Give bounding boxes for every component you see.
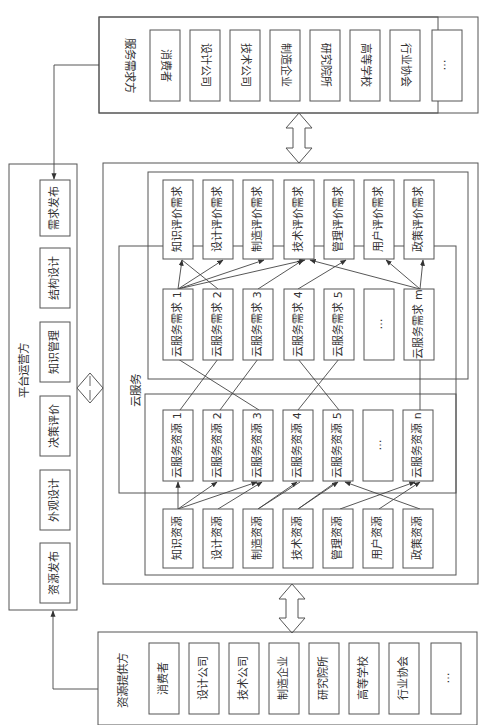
svg-text:云服务资源 1: 云服务资源 1 xyxy=(170,412,184,478)
svg-text:用户评价需求: 用户评价需求 xyxy=(371,186,385,252)
svg-text:设计公司: 设计公司 xyxy=(199,43,212,87)
svg-text:高等学校: 高等学校 xyxy=(356,656,370,700)
platform-operator-panel: 平台运营方 需求发布 结构设计 知识管理 决策评价 外观设计 资源发布 xyxy=(9,164,77,610)
svg-text:决策评价: 决策评价 xyxy=(47,404,61,448)
service-demander-title: 服务需求方 xyxy=(123,38,137,93)
evaluation-demand-row: 知识评价需求 设计评价需求 制造评价需求 技术评价需求 管理评价需求 用户评价需… xyxy=(163,180,434,259)
platform-operator-title: 平台运营方 xyxy=(17,343,31,398)
svg-text:外观设计: 外观设计 xyxy=(48,478,61,522)
diamond-connector-icon xyxy=(77,373,103,403)
svg-text:管理资源: 管理资源 xyxy=(330,516,344,560)
svg-text:用户资源: 用户资源 xyxy=(370,516,384,560)
resource-demand-crossing-lines xyxy=(178,359,420,410)
diagram-canvas: 服务需求方 消费者 设计公司 技术公司 制造企业 研究院所 高等学校 行业协会 … xyxy=(0,0,490,725)
svg-text:云服务资源 n: 云服务资源 n xyxy=(410,412,424,477)
svg-text:云服务资源 4: 云服务资源 4 xyxy=(290,412,304,478)
svg-text:制造资源: 制造资源 xyxy=(250,516,264,560)
svg-text:知识资源: 知识资源 xyxy=(170,516,184,560)
svg-text:知识管理: 知识管理 xyxy=(47,330,61,374)
resource-to-cloud-arrows xyxy=(178,482,420,509)
svg-text:政策评价需求: 政策评价需求 xyxy=(411,186,425,252)
svg-text:管理评价需求: 管理评价需求 xyxy=(331,186,345,252)
svg-text:云服务需求 1: 云服务需求 1 xyxy=(171,291,184,357)
svg-text:研究院所: 研究院所 xyxy=(316,656,330,700)
svg-text:设计公司: 设计公司 xyxy=(197,656,210,700)
svg-text:消费者: 消费者 xyxy=(156,662,170,695)
double-arrow-top-icon xyxy=(286,113,312,163)
svg-text:云服务需求 5: 云服务需求 5 xyxy=(332,291,345,357)
svg-text:云服务需求 m: 云服务需求 m xyxy=(412,289,425,358)
resource-provider-title: 资源提供方 xyxy=(116,653,130,708)
svg-text:云服务资源 5: 云服务资源 5 xyxy=(330,412,344,478)
service-demander-items: 消费者 设计公司 技术公司 制造企业 研究院所 高等学校 行业协会 xyxy=(150,30,420,101)
svg-text:云服务: 云服务 xyxy=(129,373,143,407)
svg-text:技术公司: 技术公司 xyxy=(237,656,250,700)
cloud-demand-row: 云服务需求 1 云服务需求 2 云服务需求 3 云服务需求 4 云服务需求 5 … xyxy=(163,289,434,360)
svg-text:…: … xyxy=(372,319,385,330)
svg-text:…: … xyxy=(371,440,384,451)
svg-text:制造企业: 制造企业 xyxy=(279,43,293,87)
svg-text:政策资源: 政策资源 xyxy=(410,516,424,560)
svg-text:…: … xyxy=(441,60,454,71)
service-demander-panel: 服务需求方 消费者 设计公司 技术公司 制造企业 研究院所 高等学校 行业协会 xyxy=(99,17,438,113)
svg-text:需求发布: 需求发布 xyxy=(47,186,61,230)
svg-text:行业协会: 行业协会 xyxy=(399,43,413,87)
svg-text:高等学校: 高等学校 xyxy=(359,43,373,87)
svg-text:行业协会: 行业协会 xyxy=(396,656,410,700)
double-arrow-bottom-icon xyxy=(279,584,305,633)
svg-text:制造评价需求: 制造评价需求 xyxy=(250,186,264,252)
cloud-resource-row: 云服务资源 1 云服务资源 2 云服务资源 3 云服务资源 4 云服务资源 5 … xyxy=(163,410,433,481)
svg-text:研究院所: 研究院所 xyxy=(319,43,333,87)
base-resource-row: 知识资源 设计资源 制造资源 技术资源 管理资源 用户资源 政策资源 xyxy=(163,509,433,568)
svg-text:技术资源: 技术资源 xyxy=(290,516,304,560)
svg-text:制造企业: 制造企业 xyxy=(276,656,290,700)
demander-to-operator-arrow xyxy=(54,65,99,179)
svg-text:服务需求方: 服务需求方 xyxy=(123,38,137,93)
svg-text:云服务需求 4: 云服务需求 4 xyxy=(292,291,305,357)
svg-text:云服务资源 3: 云服务资源 3 xyxy=(250,412,264,478)
svg-text:资源提供方: 资源提供方 xyxy=(116,653,130,708)
resource-provider-panel: 资源提供方 消费者 设计公司 技术公司 制造企业 研究院所 高等学校 行业协会 … xyxy=(98,632,477,725)
demand-to-evaluation-arrows xyxy=(178,260,423,289)
svg-text:设计资源: 设计资源 xyxy=(210,516,224,560)
svg-text:…: … xyxy=(439,673,452,684)
svg-text:技术评价需求: 技术评价需求 xyxy=(292,186,305,252)
provider-to-operator-arrow xyxy=(53,611,98,689)
svg-text:结构设计: 结构设计 xyxy=(47,256,61,300)
svg-text:云服务资源 2: 云服务资源 2 xyxy=(210,412,224,478)
svg-text:云服务需求 3: 云服务需求 3 xyxy=(251,291,264,357)
svg-text:设计评价需求: 设计评价需求 xyxy=(211,186,224,252)
svg-text:技术公司: 技术公司 xyxy=(239,43,252,87)
cloud-service-title: 云服务 xyxy=(129,373,143,407)
svg-text:知识评价需求: 知识评价需求 xyxy=(170,186,184,252)
svg-text:平台运营方: 平台运营方 xyxy=(17,343,31,398)
svg-text:消费者: 消费者 xyxy=(159,49,173,82)
svg-text:云服务需求 2: 云服务需求 2 xyxy=(211,291,224,357)
svg-text:资源发布: 资源发布 xyxy=(47,551,61,595)
